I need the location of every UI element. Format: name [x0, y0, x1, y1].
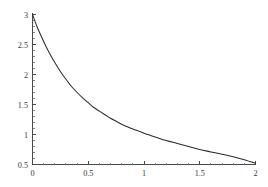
x-tick-label: 0 [30, 169, 34, 178]
y-tick-label: 2 [24, 71, 28, 80]
y-axis-tick-labels: 0.511.522.53 [18, 11, 28, 170]
x-tick-label: 0.5 [83, 169, 93, 178]
y-tick-label: 0.5 [18, 161, 28, 170]
y-tick-label: 3 [24, 11, 28, 20]
chart-container: 00.511.52 0.511.522.53 [0, 0, 268, 187]
x-tick-label: 1 [142, 169, 146, 178]
y-tick-label: 1 [24, 131, 28, 140]
y-tick-label: 1.5 [18, 101, 28, 110]
y-tick-label: 2.5 [18, 41, 28, 50]
x-tick-label: 1.5 [195, 169, 205, 178]
exponential-decay-chart: 00.511.52 0.511.522.53 [0, 0, 268, 187]
chart-series-group [33, 15, 256, 164]
x-axis-tick-labels: 00.511.52 [30, 169, 257, 178]
data-curve-decay-curve [33, 15, 256, 164]
axes-group [32, 13, 257, 166]
x-tick-label: 2 [253, 169, 257, 178]
